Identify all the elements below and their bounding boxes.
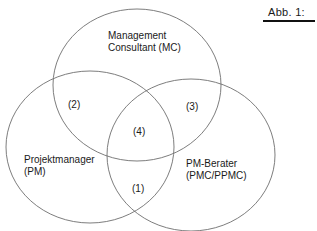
set-label-line: Consultant (MC) (108, 42, 181, 54)
set-label-projektmanager: Projektmanager (PM) (24, 154, 95, 178)
figure-caption: Abb. 1: (268, 6, 305, 19)
region-label-4: (4) (133, 126, 145, 138)
set-label-line: Management (108, 30, 181, 42)
projektmanager-ellipse (6, 71, 174, 223)
set-label-line: (PM) (24, 166, 95, 178)
set-label-line: Projektmanager (24, 154, 95, 166)
set-label-pm-berater: PM-Berater (PMC/PPMC) (186, 158, 247, 182)
set-label-line: PM-Berater (186, 158, 247, 170)
venn-diagram-figure: Abb. 1: Management Consultant (MC) Proje… (0, 0, 317, 231)
caption-underline (263, 20, 315, 22)
set-label-management-consultant: Management Consultant (MC) (108, 30, 181, 54)
set-label-line: (PMC/PPMC) (186, 170, 247, 182)
region-label-3: (3) (186, 101, 198, 113)
region-label-1: (1) (132, 183, 144, 195)
region-label-2: (2) (68, 99, 80, 111)
